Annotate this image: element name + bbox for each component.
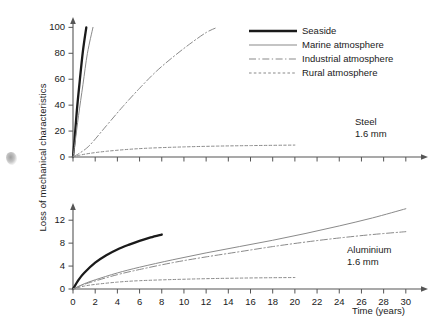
chart-aluminium-annotation: Aluminium 1.6 mm — [347, 244, 391, 267]
chart-steel-annotation: Steel 1.6 mm — [355, 116, 387, 139]
chart-legend: Seaside Marine atmosphere Industrial atm… — [248, 24, 438, 86]
legend-label-marine: Marine atmosphere — [302, 38, 384, 52]
series-line-rural — [73, 278, 295, 289]
x-axis-arrowhead — [421, 286, 428, 292]
y-tick-label: 8 — [35, 237, 65, 248]
legend-item-seaside: Seaside — [248, 24, 298, 38]
chart-aluminium: Aluminium 1.6 mm Time (years) 0246810121… — [0, 178, 438, 326]
y-tick-label: 12 — [35, 214, 65, 225]
y-tick-label: 0 — [35, 151, 65, 162]
x-tick-label: 30 — [392, 296, 420, 307]
legend-swatch-industrial — [248, 52, 298, 66]
legend-item-marine: Marine atmosphere — [248, 38, 298, 52]
annotation-line-1: Aluminium — [347, 244, 391, 256]
legend-label-rural: Rural atmosphere — [302, 66, 378, 80]
series-line-seaside — [73, 27, 86, 157]
series-line-industrial — [73, 27, 217, 157]
annotation-line-2: 1.6 mm — [347, 256, 391, 268]
y-tick-label: 100 — [35, 21, 65, 32]
y-tick-label: 20 — [35, 125, 65, 136]
annotation-line-1: Steel — [355, 116, 387, 128]
y-tick-label: 60 — [35, 73, 65, 84]
legend-item-industrial: Industrial atmosphere — [248, 52, 298, 66]
y-axis-arrowhead — [70, 17, 76, 24]
legend-swatch-marine — [248, 38, 298, 52]
chart-steel: Steel 1.6 mm Seaside Marine atmosphere — [0, 0, 438, 178]
x-axis-arrowhead — [421, 154, 428, 160]
legend-label-industrial: Industrial atmosphere — [302, 52, 393, 66]
legend-swatch-rural — [248, 66, 298, 80]
annotation-line-2: 1.6 mm — [355, 128, 387, 140]
legend-item-rural: Rural atmosphere — [248, 66, 298, 80]
y-tick-label: 4 — [35, 260, 65, 271]
y-tick-label: 40 — [35, 99, 65, 110]
y-axis-arrowhead — [70, 203, 76, 210]
series-line-seaside — [73, 235, 162, 289]
series-line-rural — [73, 145, 295, 157]
legend-label-seaside: Seaside — [302, 24, 336, 38]
y-tick-label: 80 — [35, 47, 65, 58]
y-tick-label: 0 — [35, 283, 65, 294]
legend-swatch-seaside — [248, 24, 298, 38]
figure-corrosion-loss: Loss of mechanical characteristics Steel… — [0, 0, 438, 326]
